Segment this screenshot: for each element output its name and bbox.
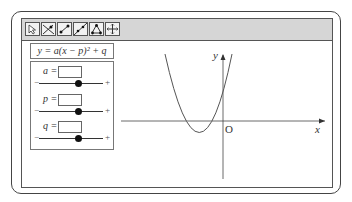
x-axis-arrow-icon	[319, 119, 325, 124]
slider-a-knob[interactable]	[75, 80, 82, 87]
slider-panel: a = − + p = − + q = − +	[30, 61, 114, 150]
slider-p-label: p =	[43, 93, 57, 104]
slider-a: a = − +	[35, 65, 109, 91]
x-axis-label: x	[314, 123, 320, 135]
slider-p: p = − +	[35, 93, 109, 119]
polygon-tool-button[interactable]	[89, 22, 104, 36]
slider-q-input[interactable]	[58, 121, 82, 133]
line-icon	[74, 23, 87, 35]
origin-label: O	[225, 123, 233, 135]
slider-p-minus: −	[34, 105, 39, 115]
segment-tool-button[interactable]	[57, 22, 72, 36]
slider-q-track[interactable]	[39, 138, 103, 139]
pointer-tool-button[interactable]	[25, 22, 40, 36]
slider-q-label: q =	[43, 120, 57, 131]
line-point-icon	[42, 23, 55, 35]
slider-q: q = − +	[35, 120, 109, 146]
slider-p-knob[interactable]	[75, 108, 82, 115]
slider-a-input[interactable]	[58, 66, 82, 78]
segment-icon	[58, 23, 71, 35]
line-tool-button[interactable]	[73, 22, 88, 36]
graph-canvas[interactable]: x y O	[120, 41, 332, 187]
slider-a-label: a =	[43, 65, 57, 76]
y-axis-label: y	[212, 49, 218, 61]
move-view-tool-button[interactable]	[105, 22, 120, 36]
toolbar	[22, 19, 332, 41]
y-axis-arrow-icon	[221, 54, 226, 60]
slider-p-input[interactable]	[58, 94, 82, 106]
slider-a-plus: +	[105, 77, 110, 87]
triangle-icon	[90, 23, 103, 35]
arrow-pointer-icon	[26, 23, 39, 35]
app-window: y = a(x − p)² + q a = − + p = − + q = − …	[21, 18, 333, 188]
formula-label: y = a(x − p)² + q	[30, 43, 114, 59]
slider-a-track[interactable]	[39, 83, 103, 84]
slider-q-knob[interactable]	[75, 135, 82, 142]
slider-q-minus: −	[34, 132, 39, 142]
slider-q-plus: +	[105, 132, 110, 142]
slider-p-plus: +	[105, 105, 110, 115]
slider-a-minus: −	[34, 77, 39, 87]
slider-p-track[interactable]	[39, 111, 103, 112]
line-through-point-tool-button[interactable]	[41, 22, 56, 36]
crosshair-move-icon	[106, 23, 119, 35]
